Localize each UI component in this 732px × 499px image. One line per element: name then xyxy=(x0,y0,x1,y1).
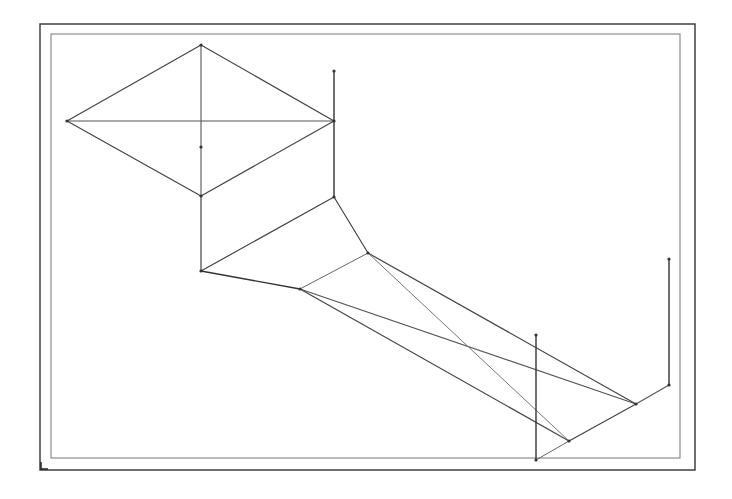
line-diagram xyxy=(0,0,732,499)
edge-node-b-to-node-g xyxy=(300,289,569,441)
node-node-h xyxy=(634,402,637,405)
edge-diamond-top-to-diamond-right xyxy=(201,45,334,121)
node-diamond-center xyxy=(199,145,202,148)
node-node-a xyxy=(199,269,202,272)
node-node-i xyxy=(667,383,670,386)
node-diamond-bottom xyxy=(199,194,202,197)
outer-frame xyxy=(40,24,695,470)
edge-node-d-to-node-h xyxy=(368,253,636,404)
edge-node-a-to-post-bottom xyxy=(201,197,334,271)
node-diamond-right xyxy=(332,119,335,122)
edge-post-bottom-to-node-d xyxy=(334,197,368,253)
edge-node-d-to-node-g xyxy=(368,253,569,441)
node-diamond-left xyxy=(65,119,68,122)
edge-node-g-to-node-h xyxy=(569,404,636,441)
edge-node-f-to-node-g xyxy=(536,441,569,460)
node-node-f xyxy=(534,458,537,461)
node-node-b xyxy=(298,287,301,290)
node-post-bottom xyxy=(332,195,335,198)
edge-diamond-right-to-diamond-bottom xyxy=(201,121,334,196)
edge-node-a-to-node-b xyxy=(201,271,300,289)
node-node-e xyxy=(534,333,537,336)
edge-node-b-to-node-d xyxy=(300,253,368,289)
corner-mark-icon xyxy=(41,462,48,469)
edge-diamond-bottom-to-diamond-left xyxy=(67,121,201,196)
inner-frame xyxy=(51,34,680,458)
edge-diamond-left-to-diamond-top xyxy=(67,45,201,121)
node-node-d xyxy=(366,251,369,254)
edge-node-h-to-node-i xyxy=(636,385,669,404)
node-node-g xyxy=(567,439,570,442)
node-node-j xyxy=(667,257,670,260)
node-post-top xyxy=(332,69,335,72)
node-diamond-top xyxy=(199,43,202,46)
node-group xyxy=(65,43,670,461)
